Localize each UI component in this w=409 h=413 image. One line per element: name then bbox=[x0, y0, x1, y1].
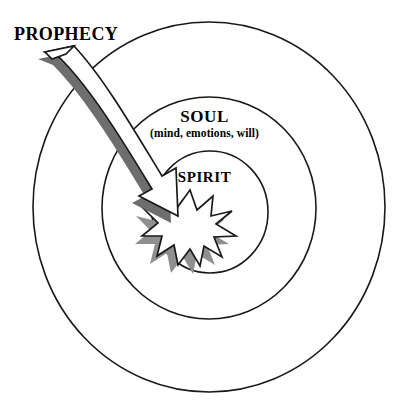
soul-sublabel: (mind, emotions, will) bbox=[0, 128, 409, 140]
prophecy-label: PROPHECY bbox=[14, 25, 118, 43]
soul-label: SOUL bbox=[0, 108, 409, 125]
spirit-label: SPIRIT bbox=[0, 170, 409, 185]
diagram-canvas bbox=[0, 0, 409, 413]
prophecy-diagram: PROPHECY SOUL (mind, emotions, will) SPI… bbox=[0, 0, 409, 413]
